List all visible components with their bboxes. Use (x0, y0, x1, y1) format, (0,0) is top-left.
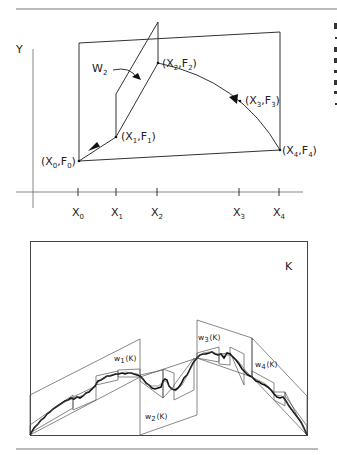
tick-label-x3: X3 (233, 206, 245, 221)
point-label-p0: (X0,F0) (41, 155, 76, 170)
point-label-p4: (X4,F4) (282, 144, 317, 159)
fractal-interpolation-figure: Y X0 X1 X2 X3 X4 W2 (0, 0, 337, 455)
map-label-w2: W2 (92, 62, 107, 77)
point-label-p2: (X2,F2) (162, 57, 197, 72)
bottom-panel-frame (31, 242, 308, 436)
bottom-panel: K w1(K) w2(K) w3(K) w4(K) (30, 242, 308, 436)
segment-p0-p1 (79, 137, 116, 161)
tick-label-x1: X1 (111, 206, 123, 221)
interpolation-points (78, 62, 282, 163)
map-label-w4: w4(K) (255, 360, 277, 371)
tick-label-x2: X2 (151, 206, 163, 221)
top-panel: Y X0 X1 X2 X3 X4 W2 (15, 22, 317, 221)
point-label-p3: (X3,F3) (245, 94, 280, 109)
arrow-curve-icon (229, 94, 238, 104)
w2-parallelogram (140, 358, 197, 435)
map-label-w1: w1(K) (114, 354, 136, 365)
y-axis-label: Y (15, 43, 23, 56)
set-label-k: K (285, 260, 293, 273)
map-label-w2: w2(K) (145, 412, 167, 423)
tick-label-x0: X0 (72, 206, 84, 221)
arrow-p0-p1-icon (88, 142, 100, 151)
x-tick-labels: X0 X1 X2 X3 X4 (72, 206, 286, 221)
point-label-p1: (X1,F1) (121, 130, 156, 145)
tick-label-x4: X4 (273, 206, 286, 221)
w1-parallelogram (30, 339, 140, 435)
map-label-w3: w3(K) (198, 333, 220, 344)
w4-parallelogram (252, 338, 307, 435)
